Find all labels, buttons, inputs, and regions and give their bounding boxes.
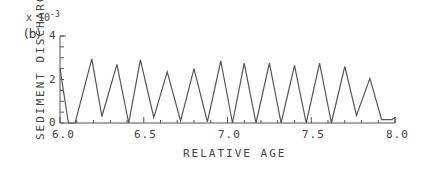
y-tick-label-4: 4 bbox=[49, 29, 57, 42]
x-tick-label-7.5: 7.5 bbox=[302, 128, 325, 141]
y-axis-label: SEDIMENT DISCHARGE bbox=[34, 0, 47, 140]
x-tick-label-6.5: 6.5 bbox=[134, 128, 157, 141]
chart-plot-area bbox=[0, 0, 425, 171]
x-tick-label-8.0: 8.0 bbox=[386, 128, 409, 141]
x-tick-label-7.0: 7.0 bbox=[218, 128, 241, 141]
x-axis-label: RELATIVE AGE bbox=[183, 147, 286, 160]
sediment-discharge-line bbox=[60, 59, 395, 123]
y-multiplier-exponent: -3 bbox=[50, 10, 60, 19]
y-tick-label-2: 2 bbox=[49, 73, 57, 86]
x-tick-label-6.0: 6.0 bbox=[52, 128, 75, 141]
